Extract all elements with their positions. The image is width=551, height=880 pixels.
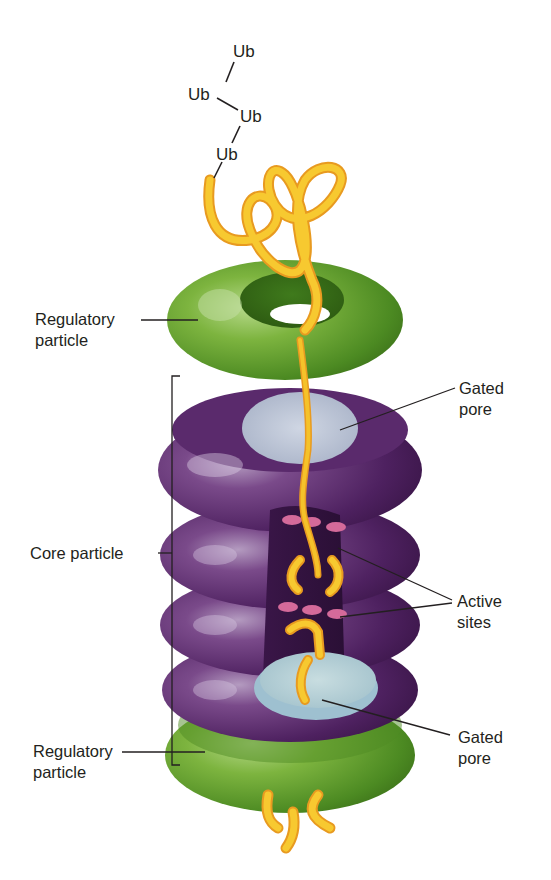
label-regulatory-particle-bottom: Regulatory particle <box>33 741 113 783</box>
proteasome-diagram: Ub Ub Ub Ub Regulatory particle Gated po… <box>0 0 551 880</box>
ubiquitin-label-3: Ub <box>240 108 262 126</box>
label-gated-pore-bottom: Gated pore <box>458 727 503 769</box>
label-gated-pore-top: Gated pore <box>459 378 504 420</box>
ubiquitin-label-1: Ub <box>233 43 255 61</box>
regulatory-particle-top <box>167 260 403 380</box>
gated-pore-bottom <box>260 652 376 708</box>
label-core-particle: Core particle <box>30 543 124 564</box>
label-regulatory-particle-top: Regulatory particle <box>35 309 115 351</box>
label-active-sites: Active sites <box>457 591 502 633</box>
ubiquitin-label-2: Ub <box>188 86 210 104</box>
gated-pore-top <box>242 392 358 464</box>
ubiquitin-label-4: Ub <box>216 146 238 164</box>
